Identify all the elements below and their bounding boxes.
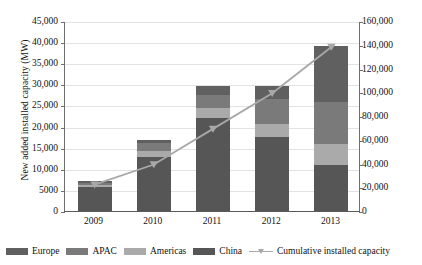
legend-item-apac[interactable]: APAC — [66, 246, 116, 256]
plot-area — [64, 22, 360, 212]
legend-swatch-icon — [124, 248, 146, 255]
x-axis-tick-label: 2013 — [300, 216, 360, 226]
tick-mark-right — [359, 212, 363, 213]
legend-swatch-icon — [6, 248, 28, 255]
y-axis-right-tick-label: 120,000 — [362, 65, 408, 75]
bar-segment-china — [137, 157, 171, 211]
bar-segment-apac — [196, 95, 230, 108]
legend-item-americas[interactable]: Americas — [124, 246, 186, 256]
tick-mark-left — [61, 212, 65, 213]
legend-item-label: China — [219, 246, 242, 256]
y-axis-left-tick-label: 30,000 — [12, 80, 58, 90]
tick-mark-right — [359, 46, 363, 47]
bar-segment-apac — [255, 99, 289, 124]
bar-segment-apac — [137, 143, 171, 150]
y-axis-left-tick-label: 10,000 — [12, 165, 58, 175]
y-axis-right-tick-label: 160,000 — [362, 17, 408, 27]
bar-2009 — [78, 181, 112, 211]
tick-mark-right — [359, 141, 363, 142]
legend-item-label: Americas — [150, 246, 186, 256]
y-axis-left-tick-label: 15,000 — [12, 144, 58, 154]
x-axis-tick-label: 2009 — [64, 216, 124, 226]
y-axis-left-tick-label: 5000 — [12, 186, 58, 196]
bar-segment-apac — [314, 102, 348, 144]
legend-item-europe[interactable]: Europe — [6, 246, 59, 256]
y-axis-right-tick-label: 140,000 — [362, 41, 408, 51]
y-axis-right-tick-label: 100,000 — [362, 88, 408, 98]
legend-line-marker-icon — [249, 248, 273, 255]
bar-segment-americas — [314, 144, 348, 166]
bar-segment-china — [255, 137, 289, 211]
legend-swatch-icon — [66, 248, 88, 255]
y-axis-right-tick-label: 20,000 — [362, 183, 408, 193]
bar-2012 — [255, 86, 289, 211]
bar-2011 — [196, 86, 230, 211]
legend-item-label: Cumulative installed capacity — [277, 246, 390, 256]
bar-segment-china — [78, 187, 112, 211]
y-axis-left-tick-label: 40,000 — [12, 38, 58, 48]
y-axis-left-tick-label: 35,000 — [12, 59, 58, 69]
tick-mark-right — [359, 188, 363, 189]
chart-legend: EuropeAPACAmericasChinaCumulative instal… — [6, 243, 418, 259]
tick-mark-right — [359, 165, 363, 166]
tick-mark-right — [359, 22, 363, 23]
chart-container: New added installed capacity (MW) Cumula… — [0, 0, 422, 265]
y-axis-left-tick-label: 25,000 — [12, 101, 58, 111]
tick-mark-right — [359, 117, 363, 118]
bar-segment-china — [196, 118, 230, 211]
bar-segment-china — [314, 165, 348, 211]
legend-item-china[interactable]: China — [193, 246, 242, 256]
bar-segment-europe — [314, 46, 348, 102]
y-axis-right-tick-label: 80,000 — [362, 112, 408, 122]
bar-segment-europe — [255, 86, 289, 99]
bar-segment-americas — [255, 124, 289, 137]
legend-swatch-icon — [193, 248, 215, 255]
bar-segment-americas — [196, 108, 230, 118]
y-axis-right-tick-label: 0 — [362, 207, 408, 217]
x-axis-labels: 20092010201120122013 — [64, 216, 360, 232]
legend-item-label: Europe — [32, 246, 59, 256]
y-axis-right-tick-label: 40,000 — [362, 160, 408, 170]
legend-item-label: APAC — [92, 246, 116, 256]
x-axis-tick-label: 2011 — [182, 216, 242, 226]
y-axis-right-ticks: 020,00040,00060,00080,000100,000120,0001… — [362, 0, 408, 212]
y-axis-right-tick-label: 60,000 — [362, 136, 408, 146]
bar-series-group — [65, 22, 359, 211]
tick-mark-right — [359, 70, 363, 71]
bar-2010 — [137, 140, 171, 211]
legend-item-cumulative-installed-capacity[interactable]: Cumulative installed capacity — [249, 246, 390, 256]
y-axis-left-tick-label: 0 — [12, 207, 58, 217]
y-axis-left-ticks: 0500010,00015,00020,00025,00030,00035,00… — [12, 0, 58, 212]
tick-mark-right — [359, 93, 363, 94]
y-axis-left-tick-label: 45,000 — [12, 17, 58, 27]
bar-segment-europe — [196, 86, 230, 94]
x-axis-tick-label: 2012 — [241, 216, 301, 226]
x-axis-tick-label: 2010 — [123, 216, 183, 226]
y-axis-left-tick-label: 20,000 — [12, 123, 58, 133]
bar-2013 — [314, 46, 348, 211]
